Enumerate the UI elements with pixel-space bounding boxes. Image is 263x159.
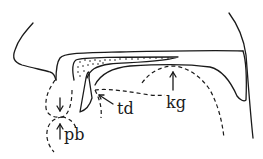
vocal-tract-diagram: td kg pb: [0, 0, 263, 159]
tongue-body-td: [95, 89, 165, 95]
label-td: td: [117, 101, 134, 117]
tongue-tip-dental-contour: [95, 90, 101, 118]
arrow-pb-down: [57, 98, 63, 111]
label-pb: pb: [64, 127, 84, 143]
arrow-kg: [170, 72, 176, 90]
pharynx-wall: [229, 13, 253, 138]
arrow-pb-up: [57, 124, 63, 139]
lower-lip-contour: [46, 80, 72, 117]
vocal-tract-drawing: [0, 0, 263, 159]
label-kg: kg: [166, 95, 186, 111]
hard-palate-bone: [73, 57, 178, 80]
upper-lip-outline: [14, 23, 56, 80]
upper-teeth: [80, 72, 92, 112]
arrow-td: [99, 95, 113, 104]
